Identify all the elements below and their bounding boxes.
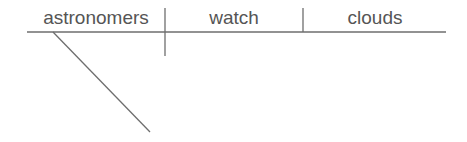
modifier-slant-line	[53, 32, 150, 132]
verb-word: watch	[209, 7, 259, 29]
subject-word: astronomers	[43, 7, 149, 29]
direct-object-word: clouds	[348, 7, 403, 29]
